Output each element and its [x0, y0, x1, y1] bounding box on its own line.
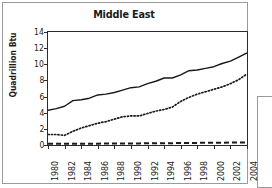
x-tick-label: 1996: [185, 161, 193, 181]
chart-title: Middle East: [15, 8, 233, 21]
x-tick-label: 1986: [102, 161, 110, 181]
x-tick-label: 1992: [152, 161, 160, 181]
y-tick-label: 10: [34, 60, 44, 69]
x-tick-mark: [197, 146, 198, 149]
y-tick-label: 14: [34, 28, 44, 37]
x-tick-mark: [98, 146, 99, 149]
x-tick-mark: [65, 146, 66, 149]
x-tick-label: 1988: [118, 161, 126, 181]
x-tick-label: 2000: [218, 161, 226, 181]
x-tick-mark: [131, 146, 132, 149]
x-tick-label: 1984: [85, 161, 93, 181]
x-tick-label: 1990: [135, 161, 143, 181]
x-tick-mark: [230, 146, 231, 149]
x-tick-mark: [148, 146, 149, 149]
series-dashed: [48, 142, 247, 143]
x-tick-mark: [247, 146, 248, 149]
x-tick-mark: [114, 146, 115, 149]
x-tick-label: 1982: [69, 161, 77, 181]
y-axis-label: Quadrillion Btu: [8, 32, 18, 99]
series-solid: [48, 53, 247, 110]
x-tick-label: 1994: [168, 161, 176, 181]
x-tick-mark: [48, 146, 49, 149]
x-tick-mark: [164, 146, 165, 149]
x-tick-label: 1998: [201, 161, 209, 181]
series-lines: [48, 32, 247, 145]
x-tick-label: 2002: [234, 161, 242, 181]
y-axis-tick-labels: 02468101214: [22, 24, 44, 153]
x-tick-mark: [81, 146, 82, 149]
plot-area: [47, 31, 248, 146]
y-tick-label: 12: [34, 44, 44, 53]
x-tick-label: 1980: [52, 161, 60, 181]
x-tick-mark: [214, 146, 215, 149]
x-tick-mark: [181, 146, 182, 149]
chart-figure: Middle East Quadrillion Btu 02468101214 …: [0, 0, 272, 188]
x-tick-label: 2004: [251, 161, 259, 181]
